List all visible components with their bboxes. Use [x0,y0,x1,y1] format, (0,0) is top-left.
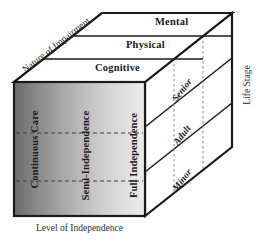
top-band-label-mental: Mental [155,16,188,27]
top-band-label-physical: Physical [126,39,165,50]
front-column-label-full-independence: Full Independence [128,91,139,221]
axis-label-life-stage: Life Stage [242,53,252,117]
top-band-label-cognitive: Cognitive [95,62,140,73]
front-column-label-semi-independence: Semi-Independence [80,91,91,221]
front-column-label-continuous-care: Continuous Care [29,95,40,205]
diagram-canvas: Mental Physical Cognitive Continuous Car… [0,0,262,242]
axis-label-level-of-independence: Level of Independence [14,223,145,233]
